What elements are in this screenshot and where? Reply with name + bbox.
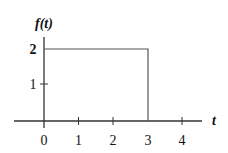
x-tick-label-3: 3 [145, 133, 152, 148]
x-tick-label-0: 0 [41, 133, 48, 148]
chart: 0 1 2 3 4 1 2 f(t) t [0, 0, 228, 153]
pulse-signal [44, 49, 148, 121]
x-tick-label-2: 2 [110, 133, 117, 148]
y-tick-label-2: 2 [30, 42, 37, 57]
y-axis-label: f(t) [35, 16, 53, 32]
x-tick-label-4: 4 [179, 133, 186, 148]
x-axis-label: t [212, 113, 217, 128]
x-tick-label-1: 1 [75, 133, 82, 148]
y-tick-label-1: 1 [30, 77, 37, 92]
